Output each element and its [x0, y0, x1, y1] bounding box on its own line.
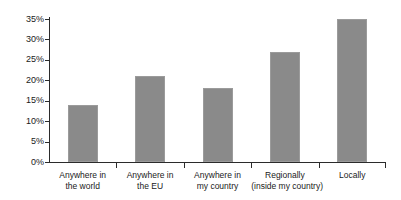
x-axis-tick	[184, 163, 185, 168]
y-axis-label-wrap: 20%	[0, 76, 44, 85]
bar	[135, 76, 165, 162]
x-axis-end-tick	[385, 163, 386, 168]
y-axis-tick	[45, 142, 50, 143]
y-axis-tick	[45, 101, 50, 102]
y-axis-label-wrap: 10%	[0, 117, 44, 126]
x-axis-label: Locally	[319, 170, 386, 181]
x-axis-label-line: the world	[49, 181, 116, 192]
y-axis-label-wrap: 5%	[0, 137, 44, 146]
x-axis-label-line: Anywhere in	[184, 170, 251, 181]
y-axis-label: 35%	[2, 15, 44, 24]
y-axis-label: 30%	[2, 35, 44, 44]
x-axis-label-line: Anywhere in	[116, 170, 183, 181]
y-axis-label: 5%	[2, 137, 44, 146]
x-axis-label: Anywhere inmy country	[184, 170, 251, 191]
x-axis-label-line: (inside my country)	[251, 181, 318, 192]
y-axis-label: 0%	[2, 158, 44, 167]
x-axis-label: Anywhere inthe EU	[116, 170, 183, 191]
y-axis-label-wrap: 25%	[0, 55, 44, 64]
y-axis-label-wrap: 0%	[0, 158, 44, 167]
bar-chart: 0%5%10%15%20%25%30%35% Anywhere inthe wo…	[0, 0, 401, 200]
x-axis-label-line: Locally	[319, 170, 386, 181]
y-axis-label: 25%	[2, 55, 44, 64]
y-axis-tick	[45, 39, 50, 40]
bar	[337, 19, 367, 162]
y-axis-label: 10%	[2, 117, 44, 126]
y-axis-label: 20%	[2, 76, 44, 85]
bar	[270, 52, 300, 162]
x-axis-tick	[251, 163, 252, 168]
x-axis-label: Regionally(inside my country)	[251, 170, 318, 191]
y-axis-tick	[45, 121, 50, 122]
x-axis-tick	[116, 163, 117, 168]
y-axis-tick	[45, 162, 50, 163]
bar	[203, 88, 233, 162]
y-axis-label-wrap: 15%	[0, 96, 44, 105]
x-axis-line	[49, 162, 386, 163]
y-axis-label-wrap: 35%	[0, 15, 44, 24]
y-axis-tick	[45, 60, 50, 61]
x-axis-tick	[319, 163, 320, 168]
x-axis-label-line: the EU	[116, 181, 183, 192]
y-axis-tick	[45, 80, 50, 81]
x-axis-label: Anywhere inthe world	[49, 170, 116, 191]
y-axis-label: 15%	[2, 96, 44, 105]
x-axis-label-line: Anywhere in	[49, 170, 116, 181]
x-axis-label-line: Regionally	[251, 170, 318, 181]
bar	[68, 105, 98, 162]
x-axis-label-line: my country	[184, 181, 251, 192]
y-axis-tick	[45, 19, 50, 20]
y-axis-label-wrap: 30%	[0, 35, 44, 44]
